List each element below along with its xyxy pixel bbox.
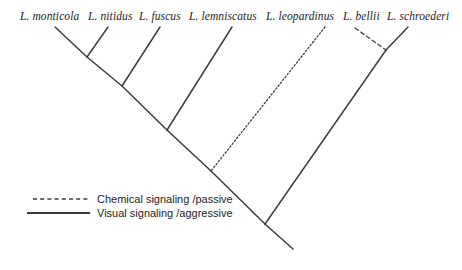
legend-lines-group — [27, 199, 90, 213]
branch-monticola — [55, 27, 87, 57]
taxon-label-l-nitidus: L. nitidus — [88, 10, 132, 22]
branch-schroederi — [386, 27, 408, 50]
branch-lemniscatus — [167, 27, 232, 130]
taxon-label-l-lemniscatus: L. lemniscatus — [189, 10, 257, 22]
branch-leopardinus — [211, 27, 325, 171]
branch-clade-fuscus-stem — [122, 86, 167, 130]
branch-clade-lemniscatus-stem — [167, 130, 211, 171]
taxon-label-l-leopardinus: L. leopardinus — [266, 10, 334, 22]
legend-label-chemical: Chemical signaling /passive — [97, 193, 233, 205]
branch-root-stem — [265, 224, 293, 249]
taxon-label-l-monticola: L. monticola — [20, 10, 79, 22]
branch-nitidus — [87, 27, 108, 57]
branch-clade-bellii-schroederi-stem — [265, 50, 386, 224]
taxon-label-l-fuscus: L. fuscus — [139, 10, 181, 22]
branch-fuscus — [122, 27, 160, 86]
tree-canvas — [0, 0, 462, 270]
branch-bellii — [355, 28, 386, 50]
phylogenetic-tree-figure: L. monticolaL. nitidusL. fuscusL. lemnis… — [0, 0, 462, 270]
taxon-label-l-bellii: L. bellii — [343, 10, 380, 22]
branch-clade-monticola-nitidus-stem — [87, 57, 122, 86]
taxon-label-l-schroederi: L. schroederi — [387, 10, 449, 22]
legend-label-visual: Visual signaling /aggressive — [97, 207, 233, 219]
